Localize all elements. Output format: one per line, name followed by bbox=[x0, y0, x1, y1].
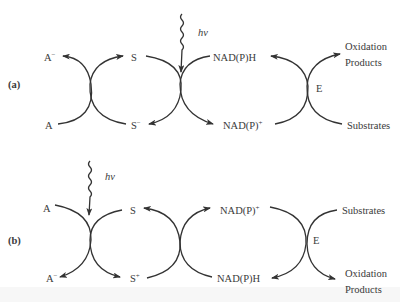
sensitizer-a: S bbox=[131, 52, 137, 63]
enzyme-a: E bbox=[316, 83, 322, 94]
label-text: A bbox=[46, 273, 54, 284]
light-label-b: hν bbox=[105, 171, 115, 182]
sensitizer-oxidized-b: S+ bbox=[130, 273, 140, 284]
oxidation-b: Oxidation bbox=[345, 268, 387, 279]
products-a: Products bbox=[345, 57, 382, 68]
arc-a-left2 bbox=[90, 56, 126, 124]
arc-b-mid bbox=[144, 208, 180, 278]
arc-b-mid2 bbox=[180, 208, 212, 277]
charge: − bbox=[54, 272, 58, 280]
charge: + bbox=[136, 272, 140, 280]
arc-b-left bbox=[55, 205, 91, 277]
arc-a-mid bbox=[146, 56, 181, 124]
species-a-reduced-b: A− bbox=[46, 273, 58, 284]
charge: + bbox=[259, 119, 263, 127]
sensitizer-b: S bbox=[130, 205, 136, 216]
diagram-graphics bbox=[0, 0, 400, 302]
panel-b-label: (b) bbox=[8, 235, 21, 246]
nadp-plus-a: NAD(P)+ bbox=[223, 120, 263, 131]
species-a-b: A bbox=[43, 203, 51, 214]
arc-a-right bbox=[271, 56, 308, 124]
nadp-plus-b: NAD(P)+ bbox=[220, 205, 260, 216]
light-label-a: hν bbox=[198, 27, 208, 38]
oxidation-a: Oxidation bbox=[345, 41, 387, 52]
species-a-a: A bbox=[45, 120, 53, 131]
arc-a-left bbox=[58, 56, 92, 124]
species-a-oxidized-a: A− bbox=[44, 52, 56, 63]
products-b: Products bbox=[345, 284, 382, 295]
arc-b-left2 bbox=[90, 210, 122, 277]
charge: − bbox=[137, 119, 141, 127]
arc-a-mid2 bbox=[180, 56, 213, 124]
label-text: A bbox=[44, 52, 52, 63]
charge: − bbox=[52, 51, 56, 59]
label-text: NAD(P) bbox=[223, 120, 259, 131]
label-text: NAD(P) bbox=[220, 205, 256, 216]
enzyme-b: E bbox=[313, 235, 319, 246]
substrates-b: Substrates bbox=[342, 205, 385, 216]
sensitizer-reduced-a: S− bbox=[131, 120, 141, 131]
nadph-a: NAD(P)H bbox=[213, 52, 256, 63]
charge: + bbox=[256, 204, 260, 212]
arc-b-right bbox=[270, 207, 306, 278]
light-arrow-b bbox=[89, 161, 92, 215]
nadph-b: NAD(P)H bbox=[217, 273, 260, 284]
panel-a-label: (a) bbox=[8, 79, 20, 90]
arc-b-right2 bbox=[307, 210, 337, 279]
substrates-a: Substrates bbox=[347, 120, 390, 131]
arc-a-right2 bbox=[307, 54, 342, 124]
light-arrow-a bbox=[181, 14, 184, 72]
